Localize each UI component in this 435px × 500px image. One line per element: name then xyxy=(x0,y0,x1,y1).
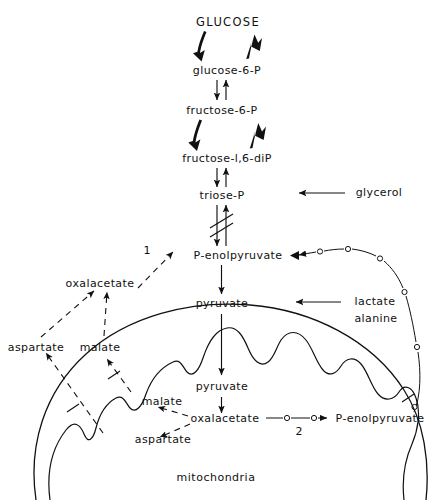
arrow-malate-to-oxaloacetate-cytosol xyxy=(104,292,107,336)
pathway-diagram-figure: P-enolpyruvate(cyt) [reaction 1] --> oxa… xyxy=(0,0,435,500)
arrow-oxaloacetate-to-pep-cytosol xyxy=(138,252,173,288)
arrow-malate-mito-to-malate-cytosol xyxy=(107,359,131,392)
node-label-oxaloacetate-cytosol: oxalacetate xyxy=(66,277,135,290)
arrow-fdp-to-f6p xyxy=(250,123,266,149)
enzyme-marker-1: 1 xyxy=(144,244,151,257)
compartment-label-mitochondria: mitochondria xyxy=(177,471,256,484)
node-label-aspartate-mito: aspartate xyxy=(135,433,191,446)
diagram-canvas: P-enolpyruvate(cyt) [reaction 1] --> oxa… xyxy=(0,0,435,500)
arrow-f6p-to-fdp xyxy=(188,120,202,152)
node-label-fructose-6-phosphate: fructose-6-P xyxy=(186,104,257,117)
arrowhead-dotted-arc-into-pep xyxy=(290,251,299,260)
arrow-glucose-to-g6p xyxy=(193,31,207,62)
arrow-aspartate-to-oxaloacetate-cytosol xyxy=(41,291,94,337)
node-label-aspartate-cytosol: aspartate xyxy=(8,341,64,354)
node-label-malate-mito: malate xyxy=(142,395,183,408)
node-label-alanine: alanine xyxy=(354,312,397,325)
node-label-triose-phosphate: triose-P xyxy=(200,189,245,202)
multistep-break-marks xyxy=(210,214,233,237)
membrane-crossing-tick-arc xyxy=(402,394,414,402)
arrow-oxaloacetate-to-malate-mito xyxy=(158,407,188,416)
node-label-pep-cytosol: P-enolpyruvate xyxy=(194,249,283,262)
node-label-glucose: GLUCOSE xyxy=(196,15,260,29)
enzyme-marker-2: 2 xyxy=(296,425,303,438)
node-label-glucose-6-phosphate: glucose-6-P xyxy=(193,64,261,77)
node-label-pep-mito: P-enolpyruvate xyxy=(336,412,425,425)
node-label-lactate: lactate xyxy=(355,295,396,308)
node-label-fructose-1-6-bisphosphate: fructose-l,6-diP xyxy=(182,152,272,165)
node-label-pyruvate-mito: pyruvate xyxy=(196,380,249,393)
node-label-oxaloacetate-mito: oxalacetate xyxy=(191,412,260,425)
node-label-pyruvate-cytosol: pyruvate xyxy=(196,297,249,310)
membrane-crossing-ticks xyxy=(67,371,120,412)
node-label-malate-cytosol: malate xyxy=(80,341,121,354)
node-label-glycerol: glycerol xyxy=(356,186,403,199)
dotted-path-oxaloacetate-to-pep-mito xyxy=(266,415,327,420)
arrow-g6p-to-glucose xyxy=(246,35,262,60)
